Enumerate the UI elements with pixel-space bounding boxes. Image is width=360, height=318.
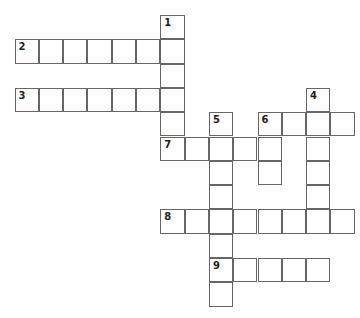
crossword-cell[interactable] (112, 88, 136, 112)
crossword-cell[interactable] (209, 234, 233, 258)
crossword-cell[interactable] (282, 209, 306, 233)
clue-number: 8 (164, 212, 171, 222)
clue-number: 7 (164, 140, 171, 150)
crossword-cell[interactable] (282, 258, 306, 282)
crossword-cell[interactable] (209, 137, 233, 161)
clue-number: 6 (262, 115, 269, 125)
crossword-cell[interactable] (258, 137, 282, 161)
crossword-cell[interactable] (233, 137, 257, 161)
crossword-cell[interactable] (136, 39, 160, 63)
crossword-cell[interactable] (233, 209, 257, 233)
crossword-cell[interactable] (330, 209, 354, 233)
clue-number: 2 (19, 42, 26, 52)
crossword-cell[interactable] (330, 112, 354, 136)
crossword-cell[interactable] (185, 209, 209, 233)
crossword-cell[interactable] (112, 39, 136, 63)
crossword-cell[interactable] (185, 137, 209, 161)
crossword-cell[interactable] (160, 112, 184, 136)
crossword-cell[interactable] (160, 64, 184, 88)
clue-number: 1 (164, 18, 171, 28)
crossword-cell[interactable] (87, 88, 111, 112)
clue-number: 3 (19, 91, 26, 101)
crossword-cell[interactable] (258, 161, 282, 185)
crossword-cell[interactable] (39, 88, 63, 112)
crossword-cell[interactable]: 7 (160, 137, 184, 161)
crossword-cell[interactable] (209, 161, 233, 185)
crossword-cell[interactable] (306, 137, 330, 161)
crossword-cell[interactable] (63, 39, 87, 63)
crossword-cell[interactable] (136, 88, 160, 112)
crossword-cell[interactable]: 9 (209, 258, 233, 282)
crossword-cell[interactable]: 4 (306, 88, 330, 112)
crossword-cell[interactable] (306, 209, 330, 233)
crossword-cell[interactable] (258, 209, 282, 233)
crossword-cell[interactable]: 3 (15, 88, 39, 112)
crossword-cell[interactable] (209, 185, 233, 209)
crossword-cell[interactable] (306, 258, 330, 282)
crossword-cell[interactable] (63, 88, 87, 112)
clue-number: 5 (213, 115, 220, 125)
crossword-cell[interactable] (282, 112, 306, 136)
crossword-cell[interactable]: 8 (160, 209, 184, 233)
crossword-cell[interactable]: 5 (209, 112, 233, 136)
crossword-cell[interactable] (160, 39, 184, 63)
crossword-cell[interactable] (306, 161, 330, 185)
clue-number: 9 (213, 261, 220, 271)
crossword-cell[interactable] (306, 112, 330, 136)
crossword-cell[interactable] (258, 258, 282, 282)
clue-number: 4 (310, 91, 317, 101)
crossword-cell[interactable]: 1 (160, 15, 184, 39)
crossword-cell[interactable] (87, 39, 111, 63)
crossword-cell[interactable] (209, 209, 233, 233)
crossword-cell[interactable] (233, 258, 257, 282)
crossword-cell[interactable] (160, 88, 184, 112)
crossword-cell[interactable] (39, 39, 63, 63)
crossword-cell[interactable]: 2 (15, 39, 39, 63)
crossword-cell[interactable] (306, 185, 330, 209)
crossword-cell[interactable]: 6 (258, 112, 282, 136)
crossword-cell[interactable] (209, 282, 233, 306)
crossword-grid: 172345968 (0, 0, 360, 318)
